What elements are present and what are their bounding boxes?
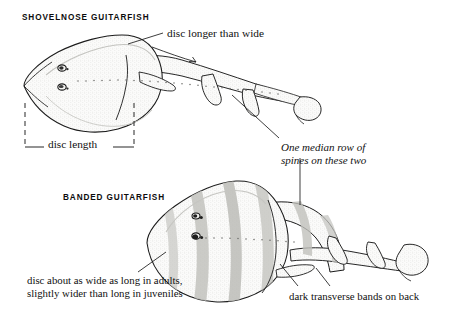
annotation-median-row-of-spines: One median row of spines on these two [281,141,366,167]
annotation-disc-width-proportions: disc about as wide as long in adults, sl… [27,274,183,300]
species-label-banded: BANDED GUITARFISH [63,193,165,202]
leader-dark-bands-2 [316,268,330,286]
annotation-disc-longer-than-wide: disc longer than wide [167,27,264,40]
annotation-median-row-line2: spines on these two [281,154,366,167]
banded-guitarfish-figure [147,172,428,307]
annotation-disc-width-line1: disc about as wide as long in adults, [27,274,183,287]
annotation-dark-transverse-bands: dark transverse bands on back [289,290,419,303]
species-label-shovelnose: SHOVELNOSE GUITARFISH [22,13,149,22]
annotation-disc-length: disc length [48,138,97,151]
guitarfish-identification-plate: SHOVELNOSE GUITARFISH BANDED GUITARFISH … [0,0,458,319]
shovelnose-guitarfish-figure [24,35,321,132]
annotation-median-row-line1: One median row of [281,141,366,154]
banded-caudal-fin [396,244,428,275]
guitarfish-illustration [0,0,458,319]
shovelnose-caudal-fin [294,97,321,121]
annotation-disc-width-line2: slightly wider than long in juveniles [27,287,183,300]
